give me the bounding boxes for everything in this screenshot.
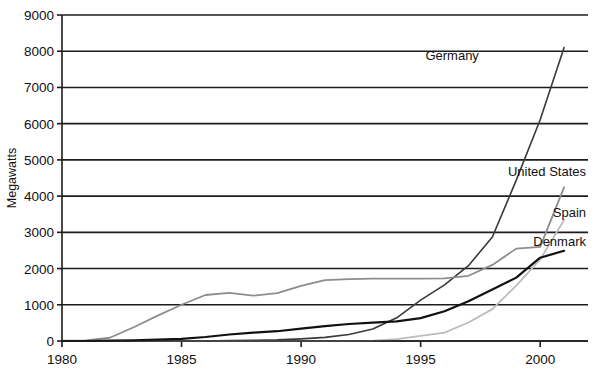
y-tick-label: 8000 xyxy=(24,44,54,59)
y-tick-label: 5000 xyxy=(24,153,54,168)
x-tick-label: 1985 xyxy=(167,352,197,367)
y-tick-label: 6000 xyxy=(24,117,54,132)
y-tick-label: 4000 xyxy=(24,189,54,204)
x-tick-label: 2000 xyxy=(525,352,555,367)
y-tick-label: 1000 xyxy=(24,298,54,313)
y-tick-label: 2000 xyxy=(24,262,54,277)
series-inline-labels: GermanyUnited StatesSpainDenmark xyxy=(425,48,586,249)
series-line-germany xyxy=(62,48,564,341)
x-tick-label: 1995 xyxy=(406,352,436,367)
series-label-germany: Germany xyxy=(425,48,479,63)
tickmarks-group xyxy=(57,15,540,347)
y-tick-label: 7000 xyxy=(24,80,54,95)
series-label-united-states: United States xyxy=(508,164,587,179)
y-axis-tick-labels: 0100020003000400050006000700080009000 xyxy=(24,8,54,349)
y-tick-label: 9000 xyxy=(24,8,54,23)
series-lines-group xyxy=(62,48,564,341)
series-label-denmark: Denmark xyxy=(533,234,586,249)
wind-capacity-line-chart: 0100020003000400050006000700080009000 19… xyxy=(0,0,595,374)
x-tick-label: 1980 xyxy=(47,352,77,367)
y-axis-title: Megawatts xyxy=(5,148,19,208)
chart-canvas: 0100020003000400050006000700080009000 19… xyxy=(0,0,595,374)
y-tick-label: 3000 xyxy=(24,225,54,240)
x-axis-tick-labels: 19801985199019952000 xyxy=(47,352,555,367)
series-line-united-states xyxy=(62,187,564,340)
series-line-spain xyxy=(62,220,564,341)
x-tick-label: 1990 xyxy=(286,352,316,367)
series-label-spain: Spain xyxy=(553,205,586,220)
y-tick-label: 0 xyxy=(46,334,54,349)
series-line-denmark xyxy=(62,251,564,341)
